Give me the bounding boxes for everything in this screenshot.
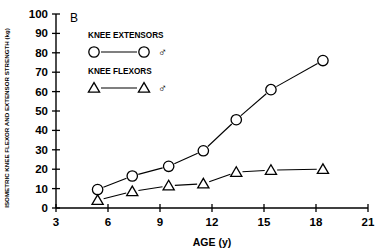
x-axis-title: AGE (y) xyxy=(193,236,232,248)
data-point-triangle xyxy=(317,164,328,174)
series-1-segment xyxy=(277,169,317,170)
series-1-segment xyxy=(175,184,197,185)
y-tick-label: 70 xyxy=(35,66,48,78)
legend-marker-triangle xyxy=(88,83,99,93)
data-point-circle xyxy=(318,55,328,65)
x-tick-label: 12 xyxy=(206,216,219,228)
legend-title-0: KNEE EXTENSORS xyxy=(88,31,164,40)
series-0-segment xyxy=(276,64,317,87)
x-tick-label: 6 xyxy=(105,216,111,228)
panel-label: B xyxy=(70,11,78,25)
series-1-segment xyxy=(209,174,230,182)
series-0-segment xyxy=(241,94,266,116)
data-point-triangle xyxy=(265,165,276,175)
data-point-triangle xyxy=(231,167,242,177)
series-0-segment xyxy=(208,124,232,147)
data-point-circle xyxy=(92,184,102,194)
legend-marker-circle xyxy=(139,47,149,57)
series-0-segment xyxy=(103,178,126,187)
y-tick-label: 100 xyxy=(29,8,48,20)
y-tick-label: 40 xyxy=(35,124,48,136)
data-point-circle xyxy=(266,84,276,94)
legend-marker-circle xyxy=(89,47,99,57)
y-tick-label: 60 xyxy=(35,86,48,98)
series-1-segment xyxy=(138,187,162,191)
x-tick-label: 9 xyxy=(157,216,163,228)
y-tick-label: 90 xyxy=(35,27,48,39)
legend-sex-symbol-0: ♂ xyxy=(158,45,167,59)
x-tick-label: 21 xyxy=(362,216,375,228)
chart-canvas: 010203040506070809010036912151821AGE (y)… xyxy=(0,0,383,252)
y-tick-label: 10 xyxy=(35,183,48,195)
data-point-triangle xyxy=(163,180,174,190)
y-tick-label: 80 xyxy=(35,47,48,59)
data-point-circle xyxy=(163,161,173,171)
data-point-circle xyxy=(198,146,208,156)
legend-sex-symbol-1: ♂ xyxy=(158,81,167,95)
data-point-triangle xyxy=(198,178,209,188)
data-point-circle xyxy=(231,115,241,125)
series-0-segment xyxy=(174,153,197,163)
series-1-segment xyxy=(104,193,127,199)
data-point-circle xyxy=(127,171,137,181)
y-axis-title: ISOMETRIC KNEE FLEXOR AND EXTENSOR STREN… xyxy=(3,28,10,208)
y-tick-label: 20 xyxy=(35,163,48,175)
data-point-triangle xyxy=(127,186,138,196)
y-tick-label: 30 xyxy=(35,144,48,156)
x-tick-label: 18 xyxy=(310,216,323,228)
series-1-segment xyxy=(242,171,264,172)
figure-panel-b: 010203040506070809010036912151821AGE (y)… xyxy=(0,0,383,252)
series-0-segment xyxy=(138,168,162,175)
legend-marker-triangle xyxy=(138,83,149,93)
data-point-triangle xyxy=(92,195,103,205)
x-tick-label: 15 xyxy=(258,216,271,228)
x-tick-label: 3 xyxy=(53,216,59,228)
y-tick-label: 50 xyxy=(35,105,48,117)
legend-title-1: KNEE FLEXORS xyxy=(88,67,152,76)
y-tick-label: 0 xyxy=(42,202,48,214)
